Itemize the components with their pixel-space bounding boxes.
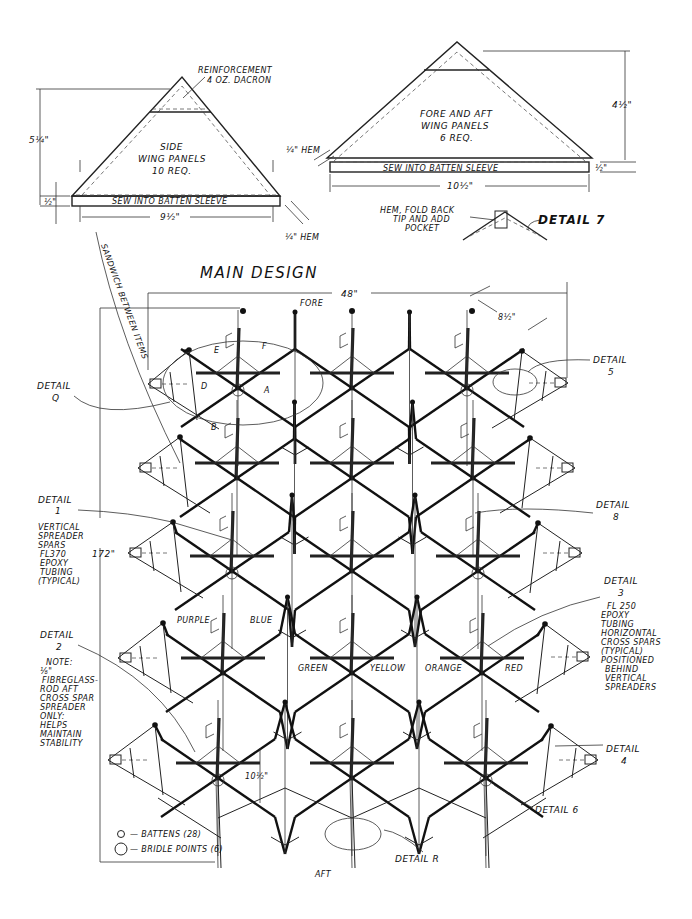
detail-4-title: DETAIL — [606, 744, 640, 754]
svg-text:MAINTAIN: MAINTAIN — [40, 730, 82, 739]
fore-aft-width-dim: 10½" — [447, 181, 473, 191]
main-height-dim: 172" — [92, 549, 115, 559]
detail-3-title: DETAIL — [604, 576, 638, 586]
detail-6-label: DETAIL 6 — [535, 805, 579, 815]
svg-text:SPREADER: SPREADER — [38, 532, 84, 541]
detail-3-note: FL 250 EPOXY TUBING HORIZONTAL CROSS SPA… — [601, 602, 661, 692]
svg-text:EPOXY: EPOXY — [601, 611, 630, 620]
side-wing-panel: REINFORCEMENT 4 OZ. DACRON SIDE WING PAN… — [29, 66, 319, 242]
svg-text:SPARS: SPARS — [38, 541, 66, 550]
fore-aft-height-dim: 4½" — [612, 100, 632, 110]
detail-4-id: 4 — [621, 756, 627, 766]
svg-text:ONLY:: ONLY: — [40, 712, 65, 721]
svg-text:(TYPICAL): (TYPICAL) — [601, 647, 643, 656]
kite-lattice — [108, 308, 598, 868]
reinforcement-label: REINFORCEMENT — [198, 66, 273, 75]
fore-label: FORE — [300, 299, 324, 308]
detail-2-title: DETAIL — [40, 630, 74, 640]
legend-bridle: — BRIDLE POINTS (6) — [130, 845, 223, 854]
side-hem-dim: ¼" HEM — [285, 233, 319, 242]
fore-aft-sleeve-dim: ½" — [595, 164, 607, 173]
detail-q-title: DETAIL — [37, 381, 71, 391]
color-label-green: GREEN — [298, 664, 328, 673]
svg-text:SPREADERS: SPREADERS — [605, 683, 656, 692]
cell-letter-e: E — [214, 346, 220, 355]
bridle-point-symbol-icon — [115, 843, 127, 855]
svg-text:TUBING: TUBING — [40, 568, 73, 577]
detail-2-id: 2 — [56, 642, 62, 652]
cell-letter-b: B — [211, 423, 217, 432]
fore-aft-wing-panel: FORE AND AFT WING PANELS 6 REQ. SEW INTO… — [286, 42, 636, 192]
detail-q-id: Q — [52, 393, 60, 403]
kite-plan-drawing: REINFORCEMENT 4 OZ. DACRON SIDE WING PAN… — [0, 0, 692, 919]
svg-text:HORIZONTAL: HORIZONTAL — [601, 629, 657, 638]
detail-7-note-2: TIP AND ADD — [393, 215, 450, 224]
legend: — BATTENS (28) — BRIDLE POINTS (6) — [115, 830, 223, 855]
cell-height-dim: 10½" — [245, 772, 268, 781]
side-panel-title-3: 10 REQ. — [152, 166, 192, 176]
main-design-title: MAIN DESIGN — [200, 264, 318, 282]
fore-aft-title-1: FORE AND AFT — [420, 109, 494, 119]
legend-battens: — BATTENS (28) — [130, 830, 201, 839]
svg-text:VERTICAL: VERTICAL — [38, 523, 80, 532]
detail-7-note-1: HEM, FOLD BACK — [380, 206, 455, 215]
side-height-dim: 5¼" — [29, 135, 49, 145]
svg-text:⅛": ⅛" — [40, 667, 52, 676]
detail-7-label: DETAIL 7 — [538, 213, 605, 227]
fore-aft-title-2: WING PANELS — [421, 121, 489, 131]
detail-5-id: 5 — [608, 367, 614, 377]
color-label-yellow: YELLOW — [370, 664, 406, 673]
cell-letter-a: A — [263, 386, 270, 395]
svg-text:ROD AFT: ROD AFT — [40, 685, 79, 694]
detail-8-title: DETAIL — [596, 500, 630, 510]
cell-letter-d: D — [201, 382, 208, 391]
svg-text:FL 250: FL 250 — [607, 602, 636, 611]
svg-text:VERTICAL: VERTICAL — [605, 674, 647, 683]
detail-5-title: DETAIL — [593, 355, 627, 365]
svg-text:BEHIND: BEHIND — [605, 665, 638, 674]
svg-text:STABILITY: STABILITY — [40, 739, 83, 748]
color-label-purple: PURPLE — [177, 616, 211, 625]
reinforcement-sub-label: 4 OZ. DACRON — [207, 76, 271, 85]
svg-text:SPREADER: SPREADER — [40, 703, 86, 712]
side-sleeve-dim: ½" — [44, 198, 56, 207]
svg-text:NOTE:: NOTE: — [46, 658, 73, 667]
side-width-dim: 9½" — [160, 212, 180, 222]
svg-text:FL370: FL370 — [40, 550, 66, 559]
svg-text:CROSS SPARS: CROSS SPARS — [601, 638, 661, 647]
detail-2-note: NOTE: ⅛" FIBREGLASS- ROD AFT CROSS SPAR … — [40, 658, 98, 748]
detail-7: HEM, FOLD BACK TIP AND ADD POCKET DETAIL… — [380, 206, 605, 240]
svg-text:EPOXY: EPOXY — [40, 559, 69, 568]
detail-5-ellipse — [493, 369, 537, 395]
batten-symbol-icon — [118, 831, 125, 838]
detail-r-label: DETAIL R — [395, 854, 439, 864]
side-panel-title-2: WING PANELS — [138, 154, 206, 164]
fore-aft-title-3: 6 REQ. — [440, 133, 473, 143]
side-panel-title-1: SIDE — [160, 142, 183, 152]
side-sleeve-label: SEW INTO BATTEN SLEEVE — [112, 197, 228, 206]
detail-1-id: 1 — [55, 506, 61, 516]
main-width-dim: 48" — [341, 289, 358, 299]
cell-letter-f: F — [262, 342, 267, 351]
sandwich-label: SANDWICH BETWEEN ITEMS — [99, 243, 149, 361]
fore-aft-sleeve-label: SEW INTO BATTEN SLEEVE — [383, 164, 499, 173]
svg-text:HELPS: HELPS — [40, 721, 67, 730]
color-label-blue: BLUE — [250, 616, 273, 625]
svg-text:POSITIONED: POSITIONED — [601, 656, 654, 665]
svg-text:(TYPICAL): (TYPICAL) — [38, 577, 80, 586]
detail-8-id: 8 — [613, 512, 619, 522]
color-label-orange: ORANGE — [425, 664, 463, 673]
svg-text:FIBREGLASS-: FIBREGLASS- — [42, 676, 98, 685]
cell-dim: 8½" — [498, 313, 516, 322]
detail-1-note: VERTICAL SPREADER SPARS FL370 EPOXY TUBI… — [38, 523, 84, 586]
detail-1-title: DETAIL — [38, 495, 72, 505]
svg-text:TUBING: TUBING — [601, 620, 634, 629]
svg-text:CROSS SPAR: CROSS SPAR — [40, 694, 94, 703]
detail-3-id: 3 — [618, 588, 624, 598]
detail-7-note-3: POCKET — [405, 224, 440, 233]
aft-label: AFT — [314, 870, 332, 879]
color-label-red: RED — [505, 664, 523, 673]
fore-aft-hem-dim: ¼" HEM — [286, 146, 320, 155]
